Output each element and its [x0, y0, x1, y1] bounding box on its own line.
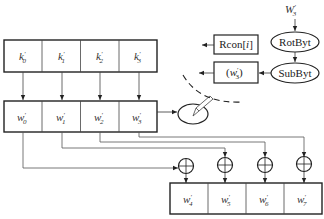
xor-icon-2 [218, 158, 233, 173]
bottom-word-row: w′4 w′5 w′6 w′7 [170, 183, 322, 214]
xor-icon-3 [258, 158, 273, 173]
cell-w0: w′0 [17, 111, 27, 126]
cell-w2: w′2 [94, 111, 104, 126]
cell-w6: w′6 [259, 193, 269, 208]
xor-gates [179, 157, 312, 174]
xor-icon-4 [297, 157, 312, 172]
cell-w5: w′5 [221, 193, 231, 208]
cell-k3: k′3 [134, 50, 141, 65]
subbyt-node: SubByt [271, 63, 319, 83]
cell-w3: w′3 [132, 111, 142, 126]
pencil-icon [193, 96, 213, 116]
subbyt-label: SubByt [278, 67, 311, 79]
cell-k2: k′2 [96, 50, 103, 65]
rotbyt-label: RotByt [279, 36, 311, 48]
xor-output-arrows [186, 172, 304, 184]
k-to-w-arrows [23, 72, 139, 100]
top-key-row: k′0 k′1 k′2 k′3 [4, 40, 157, 72]
middle-word-row: w′0 w′1 w′2 w′3 [4, 101, 157, 132]
input-w3-label: W′3 [285, 3, 297, 18]
cell-k1: k′1 [58, 50, 65, 65]
w3-box-label: (w′3) [226, 66, 243, 81]
cell-w7: w′7 [297, 193, 307, 208]
xor-icon-1 [179, 159, 194, 174]
cell-k0: k′0 [19, 50, 26, 65]
cell-w4: w′4 [183, 193, 193, 208]
xor-wires [23, 132, 304, 168]
rcon-label: Rcon[i] [219, 38, 253, 50]
key-expansion-diagram: k′0 k′1 k′2 k′3 w′0 w′1 w′2 w′3 W′3 Rot [0, 0, 324, 219]
w3-box: (w′3) [214, 62, 258, 83]
rcon-box: Rcon[i] [214, 35, 258, 54]
cell-w1: w′1 [56, 111, 65, 126]
rotbyt-node: RotByt [271, 32, 319, 52]
